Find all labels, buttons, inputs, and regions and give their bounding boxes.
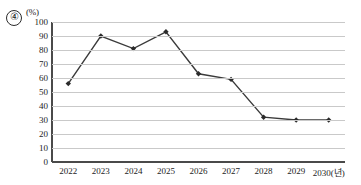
gridline [52, 78, 345, 79]
y-axis-tick-label: 10 [6, 143, 52, 153]
y-axis-unit-label: (%) [26, 7, 39, 17]
x-axis-tick-label: 2026 [190, 166, 208, 176]
y-axis-tick-label: 0 [6, 157, 52, 167]
y-axis-tick-label: 20 [6, 129, 52, 139]
plot-area [52, 22, 345, 162]
gridline [52, 36, 345, 37]
y-axis-tick-label: 90 [6, 31, 52, 41]
gridline [52, 22, 345, 23]
x-axis-tick-label: 2028 [255, 166, 273, 176]
x-axis-tick-label: 2024 [124, 166, 142, 176]
y-axis-tick-labels: 0102030405060708090100 [0, 22, 52, 162]
x-axis-tick-label: 2022 [59, 166, 77, 176]
x-axis-tick-label: 2027 [222, 166, 240, 176]
y-axis-tick-label: 60 [6, 73, 52, 83]
gridline [52, 64, 345, 65]
gridline [52, 50, 345, 51]
x-axis-tick-label: 2030(년) [313, 166, 345, 179]
gridline [52, 120, 345, 121]
gridline [52, 92, 345, 93]
gridline [52, 134, 345, 135]
x-axis-tick-label: 2025 [157, 166, 175, 176]
x-axis-tick-label: 2029 [287, 166, 305, 176]
x-axis-tick-label: 2023 [92, 166, 110, 176]
y-axis-tick-label: 100 [6, 17, 52, 27]
chart-figure: ④ (%) 0102030405060708090100 20222023202… [0, 0, 361, 185]
gridline [52, 148, 345, 149]
y-axis-tick-label: 80 [6, 45, 52, 55]
y-axis-tick-label: 30 [6, 115, 52, 125]
gridline [52, 106, 345, 107]
y-axis-tick-label: 50 [6, 87, 52, 97]
y-axis-tick-label: 70 [6, 59, 52, 69]
y-axis-tick-label: 40 [6, 101, 52, 111]
